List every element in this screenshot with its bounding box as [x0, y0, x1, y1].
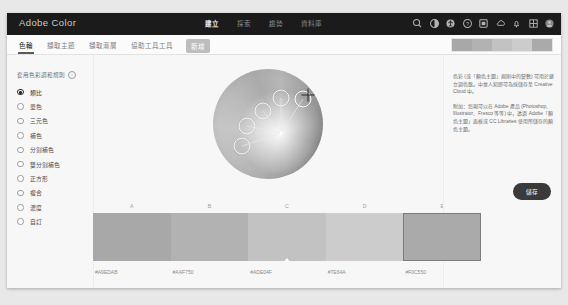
- rule-label: 類比: [30, 88, 42, 97]
- sidebar-title: 套用色彩調和規則i: [17, 71, 76, 79]
- swatch-label-c: C: [248, 203, 326, 213]
- apps-icon[interactable]: [478, 18, 489, 29]
- radio-icon[interactable]: [17, 204, 24, 211]
- hex-value-row: #A9EDAB #AAF750 #ADE04F #7E64A #F0C550: [93, 269, 481, 281]
- radio-icon[interactable]: [17, 161, 24, 168]
- hex-value-a[interactable]: #A9EDAB: [93, 269, 171, 281]
- rule-label: 三元色: [30, 116, 48, 125]
- swatch-label-d: D: [326, 203, 404, 213]
- base-color-marker-icon: [284, 258, 290, 262]
- rule-label: 單色: [30, 102, 42, 111]
- app-window: Adobe Color 建立 探索 趨勢 資料庫 ?: [7, 13, 561, 288]
- hex-value-b[interactable]: #AAF750: [171, 269, 249, 281]
- palette-preview-strip: [451, 38, 553, 52]
- preview-swatch-a: [452, 39, 472, 51]
- nav-item-libraries[interactable]: 資料庫: [301, 19, 322, 29]
- accessibility-icon[interactable]: [445, 18, 456, 29]
- rule-option-monochromatic[interactable]: 單色: [17, 99, 91, 113]
- harmony-rule-list: 類比 單色 三元色 補色: [17, 85, 91, 229]
- cloud-icon[interactable]: [495, 18, 506, 29]
- wheel-marker-a[interactable]: [233, 138, 250, 155]
- rule-option-compound[interactable]: 複合: [17, 186, 91, 200]
- top-navigation: 建立 探索 趨勢 資料庫: [205, 19, 322, 29]
- swatch-label-row: A B C D E: [93, 203, 481, 213]
- swatch-b[interactable]: [171, 213, 249, 261]
- bell-icon[interactable]: [511, 18, 522, 29]
- rule-option-analogous[interactable]: 類比: [17, 85, 91, 99]
- rule-label: 正方形: [30, 174, 48, 183]
- rule-label: 分割補色: [30, 145, 54, 154]
- nav-item-explore[interactable]: 探索: [237, 19, 251, 29]
- top-bar: Adobe Color 建立 探索 趨勢 資料庫 ?: [7, 13, 561, 35]
- info-panel-text: 色彩 (或「顏色主題」規則中的變數) 可用於建立調色盤。中並人知即可為採儲存至 …: [453, 73, 557, 140]
- swatch-d[interactable]: [326, 213, 404, 261]
- app-brand: Adobe Color: [19, 17, 76, 28]
- tab-extract-gradient[interactable]: 擷取漸層: [88, 39, 118, 53]
- sidebar-title-text: 套用色彩調和規則: [17, 72, 65, 78]
- palette-strip: A B C D E #A9EDAB #AAF750: [93, 203, 481, 288]
- radio-icon[interactable]: [17, 132, 24, 139]
- nav-item-trends[interactable]: 趨勢: [269, 19, 283, 29]
- grid-icon[interactable]: [528, 18, 539, 29]
- rule-option-square[interactable]: 正方形: [17, 171, 91, 185]
- rule-option-triad[interactable]: 三元色: [17, 114, 91, 128]
- preview-swatch-b: [472, 39, 492, 51]
- rule-option-shades[interactable]: 濃度: [17, 200, 91, 214]
- tab-list: 色輪 擷取主題 擷取漸層 協助工具工具 新增: [18, 39, 210, 53]
- harmony-spokes: [213, 69, 323, 179]
- wheel-marker-b[interactable]: [239, 118, 256, 135]
- radio-icon[interactable]: [17, 118, 24, 125]
- rule-option-double-split-complementary[interactable]: 雙分割補色: [17, 157, 91, 171]
- rule-label: 自訂: [30, 217, 42, 226]
- radio-icon[interactable]: [17, 103, 24, 110]
- radio-icon[interactable]: [17, 218, 24, 225]
- help-icon[interactable]: ?: [462, 18, 473, 29]
- swatch-row: [93, 213, 481, 261]
- app-body: 套用色彩調和規則i 類比 單色 三元色: [7, 55, 561, 288]
- radio-icon[interactable]: [17, 89, 24, 96]
- nav-item-create[interactable]: 建立: [205, 19, 219, 29]
- info-paragraph-1: 色彩 (或「顏色主題」規則中的變數) 可用於建立調色盤。中並人知即可為採儲存至 …: [453, 73, 557, 96]
- rule-label: 雙分割補色: [30, 160, 60, 169]
- swatch-c[interactable]: [248, 213, 326, 261]
- tab-strip: 色輪 擷取主題 擷取漸層 協助工具工具 新增: [7, 35, 561, 55]
- screenshot-root: Adobe Color 建立 探索 趨勢 資料庫 ?: [0, 0, 568, 305]
- hex-value-d[interactable]: #7E64A: [326, 269, 404, 281]
- swatch-e[interactable]: [403, 213, 481, 261]
- preview-swatch-c: [492, 39, 512, 51]
- rule-option-complementary[interactable]: 補色: [17, 128, 91, 142]
- rule-option-split-complementary[interactable]: 分割補色: [17, 143, 91, 157]
- preview-swatch-d: [512, 39, 532, 51]
- swatch-a[interactable]: [93, 213, 171, 261]
- save-button[interactable]: 儲存: [513, 183, 551, 200]
- rule-option-custom[interactable]: 自訂: [17, 215, 91, 229]
- hex-value-c[interactable]: #ADE04F: [248, 269, 326, 281]
- contrast-icon[interactable]: [429, 18, 440, 29]
- info-icon[interactable]: i: [68, 71, 76, 79]
- search-icon[interactable]: [412, 18, 423, 29]
- radio-icon[interactable]: [17, 147, 24, 154]
- swatch-label-a: A: [93, 203, 171, 213]
- tab-extract-theme[interactable]: 擷取主題: [46, 39, 76, 53]
- svg-text:?: ?: [465, 21, 468, 27]
- rule-label: 濃度: [30, 203, 42, 212]
- top-icon-bar: ?: [412, 18, 555, 29]
- tab-new[interactable]: 新增: [186, 39, 210, 53]
- wheel-marker-c[interactable]: [254, 102, 271, 119]
- preview-swatch-e: [532, 39, 552, 51]
- swatch-label-b: B: [171, 203, 249, 213]
- tab-accessibility-tools[interactable]: 協助工具工具: [130, 39, 174, 53]
- wheel-marker-d[interactable]: [273, 89, 290, 106]
- rule-label: 複合: [30, 188, 42, 197]
- tab-color-wheel[interactable]: 色輪: [18, 39, 34, 53]
- wheel-crosshair-icon[interactable]: [301, 89, 314, 102]
- info-paragraph-2: 附加：您現可以在 Adobe 產品 (Photoshop、Illustrator…: [453, 103, 557, 133]
- radio-icon[interactable]: [17, 175, 24, 182]
- radio-icon[interactable]: [17, 190, 24, 197]
- harmony-rule-sidebar: 套用色彩調和規則i 類比 單色 三元色: [7, 55, 94, 288]
- avatar-icon[interactable]: [544, 18, 555, 29]
- color-wheel-wrapper[interactable]: [213, 69, 323, 179]
- rule-label: 補色: [30, 131, 42, 140]
